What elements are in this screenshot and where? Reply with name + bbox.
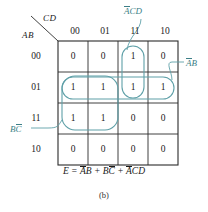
group-label-bc-bar: C [16,124,22,134]
column-header-0: 00 [58,26,92,36]
column-variable-label: CD [43,13,56,23]
figure-caption: (b) [0,190,208,200]
kmap-cell: 0 [88,144,118,154]
equation-term3-bar: A [126,166,132,176]
row-header-1: 01 [25,82,47,92]
row-header-3: 10 [25,144,47,154]
equation-term3-plain: CD [132,166,145,176]
equation-term2-bar: C [109,166,115,176]
kmap-cell: 1 [58,113,88,123]
kmap-cell: 1 [58,82,88,92]
equation-plus-1: + [92,166,103,176]
group-label-acd: ACD [124,6,142,16]
boolean-equation: E = AB + BC + ACD [0,166,208,176]
equation-term1-bar: A [80,166,86,176]
group-label-acd-bar: A [124,6,130,16]
group-label-ab-bar: A [186,58,192,68]
group-label-ab-plain: B [192,58,198,68]
kmap-cell: 0 [58,51,88,61]
kmap-cell: 0 [58,144,88,154]
kmap-cell: 1 [88,113,118,123]
row-header-0: 00 [25,51,47,61]
column-header-1: 01 [88,26,122,36]
kmap-cell: 0 [118,113,148,123]
leader-line-ab [169,62,184,80]
kmap-cell: 0 [148,144,178,154]
kmap-cell: 1 [118,82,148,92]
kmap-figure: CD AB 00 01 11 10 00 01 11 10 0 0 1 0 1 … [0,0,208,212]
group-label-bc: BC [10,124,22,134]
group-label-ab: AB [186,58,197,68]
kmap-cell: 1 [88,82,118,92]
kmap-cell: 1 [118,51,148,61]
row-header-2: 11 [25,113,47,123]
kmap-cell: 1 [148,82,178,92]
kmap-cell: 0 [148,51,178,61]
kmap-cell: 0 [118,144,148,154]
column-header-2: 11 [118,26,152,36]
kmap-cell: 0 [148,113,178,123]
equation-prefix: E = [63,166,80,176]
equation-plus-2: + [115,166,126,176]
group-label-acd-plain: CD [130,6,143,16]
row-variable-label: AB [22,30,34,40]
column-header-3: 10 [148,26,182,36]
kmap-cell: 0 [88,51,118,61]
